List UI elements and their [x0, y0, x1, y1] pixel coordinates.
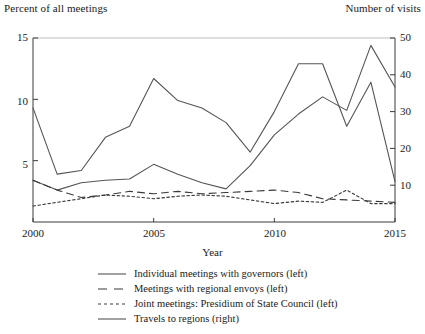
x-tick-2005: 2005	[134, 227, 174, 239]
x-tick-2015: 2015	[375, 227, 415, 239]
legend-item-regional-envoys: Meetings with regional envoys (left)	[97, 281, 397, 296]
x-tick-2010: 2010	[255, 227, 295, 239]
legend-item-travels-to-regions: Travels to regions (right)	[97, 311, 397, 326]
y-right-tick-30: 30	[400, 105, 424, 117]
data-series-layer	[33, 45, 395, 206]
legend-label: Individual meetings with governors (left…	[134, 268, 307, 280]
legend-key-solid-icon	[97, 268, 127, 280]
y-left-tick-10: 10	[6, 95, 28, 107]
legend-key-dashed-icon	[97, 283, 127, 295]
legend-label: Joint meetings: Presidium of State Counc…	[134, 298, 338, 310]
y-left-tick-5: 5	[6, 158, 28, 170]
series-line	[33, 45, 395, 190]
chart-legend: Individual meetings with governors (left…	[97, 266, 397, 326]
axis-ticks	[33, 38, 395, 222]
chart-figure: Percent of all meetings Number of visits…	[0, 0, 425, 334]
y-right-tick-10: 10	[400, 179, 424, 191]
series-line	[33, 190, 395, 206]
legend-item-individual-meetings: Individual meetings with governors (left…	[97, 266, 397, 281]
legend-key-dotted-icon	[97, 298, 127, 310]
y-right-tick-40: 40	[400, 68, 424, 80]
legend-key-solid-icon	[97, 313, 127, 325]
series-line	[33, 64, 395, 182]
x-axis-title: Year	[0, 246, 425, 258]
y-left-tick-15: 15	[6, 31, 28, 43]
legend-label: Meetings with regional envoys (left)	[134, 283, 287, 295]
y-right-tick-50: 50	[400, 31, 424, 43]
series-line	[33, 180, 395, 202]
x-tick-2000: 2000	[13, 227, 53, 239]
legend-label: Travels to regions (right)	[134, 313, 239, 325]
legend-item-joint-meetings: Joint meetings: Presidium of State Counc…	[97, 296, 397, 311]
axis-frame	[33, 38, 395, 222]
y-right-tick-20: 20	[400, 142, 424, 154]
